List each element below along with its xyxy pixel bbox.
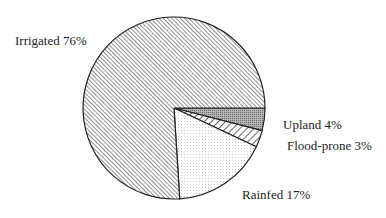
label-irrigated: Irrigated 76%	[15, 34, 87, 47]
label-rainfed: Rainfed 17%	[242, 188, 310, 201]
label-upland: Upland 4%	[283, 118, 342, 131]
pie-slices	[83, 17, 265, 199]
label-flood-prone: Flood-prone 3%	[287, 139, 372, 152]
